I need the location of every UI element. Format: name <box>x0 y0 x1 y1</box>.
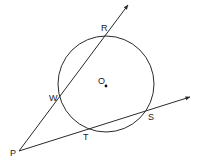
label-W: W <box>49 93 58 103</box>
label-O: O <box>98 76 105 86</box>
label-S: S <box>148 112 154 122</box>
ray-PS <box>19 97 190 151</box>
center-point-dot <box>105 85 108 88</box>
ray-PR <box>19 5 128 151</box>
secant-diagram: R W O T S P <box>0 0 201 163</box>
circle-O <box>58 36 154 132</box>
label-P: P <box>10 148 16 158</box>
label-R: R <box>101 23 108 33</box>
label-T: T <box>83 132 89 142</box>
